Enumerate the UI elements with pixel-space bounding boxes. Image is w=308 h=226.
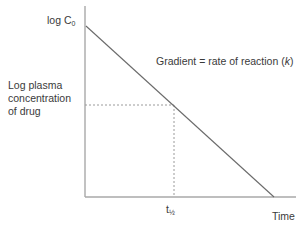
- y-axis-label: Log plasma concentration of drug: [8, 79, 80, 118]
- annotation-suffix: ): [290, 55, 294, 67]
- y-tick-log-c0: log C0: [47, 14, 75, 30]
- gradient-annotation: Gradient = rate of reaction (k): [156, 55, 293, 68]
- y-tick-subscript: 0: [72, 20, 76, 27]
- annotation-prefix: Gradient = rate of reaction (: [156, 55, 285, 67]
- x-tick-subscript: ½: [169, 209, 175, 216]
- x-axis-label: Time: [272, 210, 295, 223]
- x-tick-half-life: t½: [166, 203, 175, 219]
- y-tick-main: log C: [47, 14, 72, 26]
- decay-line: [86, 26, 274, 197]
